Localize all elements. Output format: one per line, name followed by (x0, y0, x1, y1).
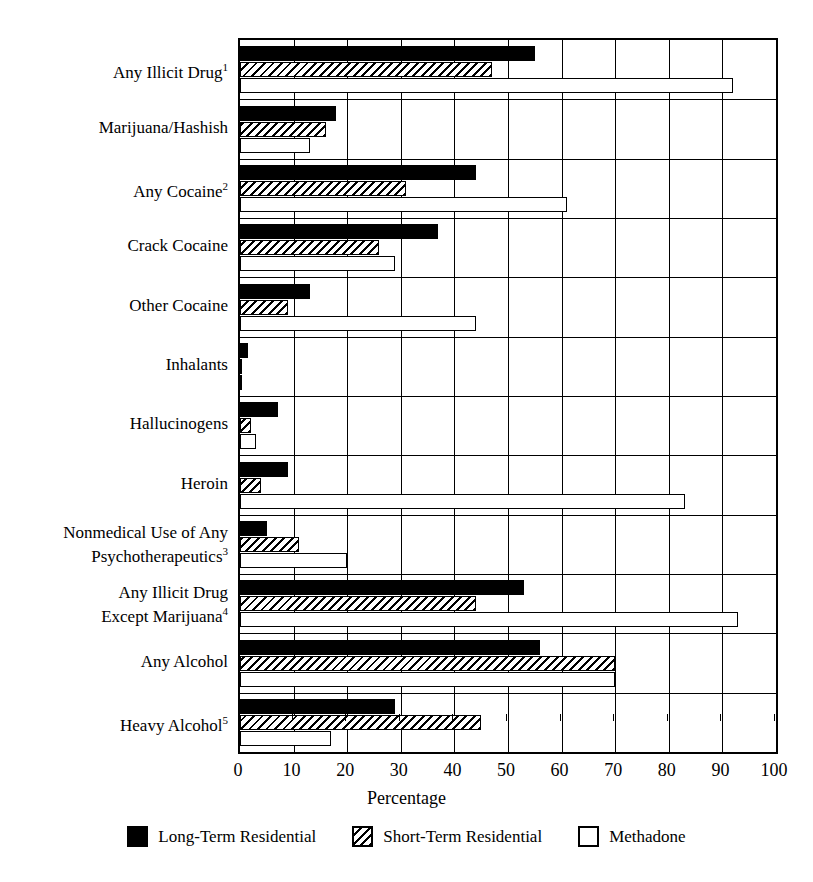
x-tick-label: 70 (588, 760, 638, 781)
category-label: Heroin (0, 474, 228, 493)
group-separator (240, 337, 776, 338)
x-tick-label: 10 (267, 760, 317, 781)
group-separator (240, 99, 776, 100)
category-label: Heavy Alcohol5 (0, 711, 228, 735)
bar-long-term-residential (240, 699, 395, 714)
bar-short-term-residential (240, 240, 379, 255)
bar-long-term-residential (240, 46, 535, 61)
group-separator (240, 574, 776, 575)
bar-short-term-residential (240, 715, 481, 730)
x-tick-label: 80 (642, 760, 692, 781)
bar-methadone (240, 316, 476, 331)
category-label: Nonmedical Use of AnyPsychotherapeutics3 (0, 523, 228, 566)
bar-methadone (240, 494, 685, 509)
category-label: Inhalants (0, 355, 228, 374)
bar-methadone (240, 138, 310, 153)
group-separator (240, 515, 776, 516)
x-tick-label: 100 (749, 760, 799, 781)
x-tick-label: 50 (481, 760, 531, 781)
category-label: Any Illicit Drug1 (0, 58, 228, 82)
bar-methadone (240, 434, 256, 449)
bar-methadone (240, 731, 331, 746)
bar-long-term-residential (240, 106, 336, 121)
plot-area (238, 38, 778, 754)
x-tick (399, 714, 400, 721)
bar-methadone (240, 197, 567, 212)
x-tick (720, 714, 721, 721)
bar-short-term-residential (240, 300, 288, 315)
x-tick-label: 0 (213, 760, 263, 781)
x-tick (238, 714, 239, 721)
bar-methadone (240, 612, 738, 627)
x-tick-label: 40 (427, 760, 477, 781)
legend-label-short-term: Short-Term Residential (383, 827, 542, 847)
bar-long-term-residential (240, 521, 267, 536)
bar-long-term-residential (240, 640, 540, 655)
category-label: Hallucinogens (0, 414, 228, 433)
category-label: Marijuana/Hashish (0, 118, 228, 137)
group-separator (240, 693, 776, 694)
bar-long-term-residential (240, 165, 476, 180)
x-tick-label: 20 (320, 760, 370, 781)
x-tick-label: 60 (535, 760, 585, 781)
bar-short-term-residential (240, 537, 299, 552)
bar-methadone (240, 553, 347, 568)
bar-methadone (240, 78, 733, 93)
x-tick-label: 30 (374, 760, 424, 781)
category-label: Any Cocaine2 (0, 177, 228, 201)
legend-swatch-short-term (352, 826, 373, 847)
bar-short-term-residential (240, 181, 406, 196)
x-tick (774, 714, 775, 721)
category-label: Any Alcohol (0, 652, 228, 671)
x-tick-label: 90 (695, 760, 745, 781)
bar-methadone (240, 375, 242, 390)
bar-long-term-residential (240, 462, 288, 477)
category-label: Other Cocaine (0, 296, 228, 315)
group-separator (240, 455, 776, 456)
bar-short-term-residential (240, 122, 326, 137)
group-separator (240, 396, 776, 397)
x-axis-title: Percentage (0, 788, 813, 809)
category-label: Crack Cocaine (0, 236, 228, 255)
legend-label-long-term: Long-Term Residential (158, 827, 316, 847)
x-tick (452, 714, 453, 721)
x-tick (667, 714, 668, 721)
bar-long-term-residential (240, 224, 438, 239)
group-separator (240, 159, 776, 160)
legend-item-long-term[interactable]: Long-Term Residential (127, 826, 316, 847)
x-tick (292, 714, 293, 721)
legend: Long-Term Residential Short-Term Residen… (0, 826, 813, 847)
bar-short-term-residential (240, 596, 476, 611)
x-tick (613, 714, 614, 721)
bar-short-term-residential (240, 62, 492, 77)
bar-chart: Any Illicit Drug1Marijuana/HashishAny Co… (0, 0, 813, 882)
x-tick (506, 714, 507, 721)
group-separator (240, 633, 776, 634)
legend-item-short-term[interactable]: Short-Term Residential (352, 826, 542, 847)
bar-short-term-residential (240, 478, 261, 493)
x-tick (345, 714, 346, 721)
bar-short-term-residential (240, 656, 615, 671)
bar-long-term-residential (240, 402, 278, 417)
bar-long-term-residential (240, 580, 524, 595)
legend-label-methadone: Methadone (609, 827, 685, 847)
bar-long-term-residential (240, 284, 310, 299)
category-label: Any Illicit DrugExcept Marijuana4 (0, 583, 228, 626)
bar-methadone (240, 672, 615, 687)
legend-swatch-long-term (127, 826, 148, 847)
bar-short-term-residential (240, 359, 242, 374)
bar-long-term-residential (240, 343, 248, 358)
group-separator (240, 218, 776, 219)
legend-item-methadone[interactable]: Methadone (578, 826, 685, 847)
legend-swatch-methadone (578, 826, 599, 847)
bar-short-term-residential (240, 418, 251, 433)
x-tick (560, 714, 561, 721)
group-separator (240, 277, 776, 278)
bar-methadone (240, 256, 395, 271)
